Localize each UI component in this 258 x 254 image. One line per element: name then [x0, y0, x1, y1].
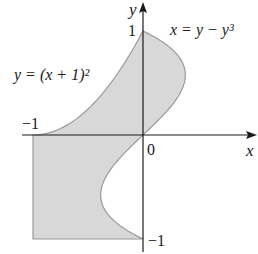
diagram-canvas: y x 0 1 −1 −1 x = y − y³ y = (x + 1)²: [0, 0, 258, 254]
cubic-curve-label: x = y − y³: [169, 21, 234, 39]
y-axis-label: y: [127, 0, 137, 19]
parabola-curve-label: y = (x + 1)²: [12, 66, 90, 84]
tick-label-y-neg1: −1: [148, 232, 165, 249]
tick-label-y-pos1: 1: [128, 22, 136, 39]
tick-label-x-neg1: −1: [22, 115, 39, 132]
x-axis-label: x: [245, 141, 254, 160]
origin-label: 0: [147, 141, 155, 158]
